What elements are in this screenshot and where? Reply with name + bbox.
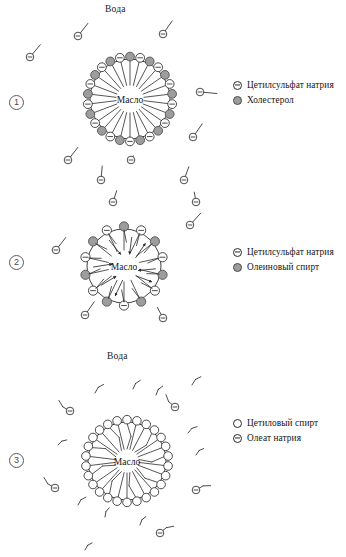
surfactant-head [150, 488, 159, 497]
anionic-circle-icon [233, 434, 242, 443]
surfactant-head [84, 471, 93, 480]
free-molecule-tail [163, 528, 166, 531]
free-tail-fragment [192, 379, 195, 385]
surfactant-tail [121, 61, 127, 85]
oil-core-label-2: Масло [111, 262, 138, 272]
free-molecule-tail [166, 526, 173, 527]
free-tail-fragment [81, 497, 86, 500]
surfactant-tail [152, 456, 165, 462]
panel-cetyl-sulfate-oleyl-alcohol: 2 Масло Цетилсульфат натрия Олеиновый сп… [0, 190, 346, 345]
surfactant-tail [133, 113, 139, 137]
free-tail-fragment [62, 440, 67, 441]
surfactant-head [168, 89, 177, 98]
free-tail-fragment [136, 380, 141, 383]
free-tail-fragment [140, 520, 142, 525]
free-tail-fragment [156, 389, 158, 395]
surfactant-head [126, 52, 135, 61]
surfactant-head [84, 442, 93, 451]
anionic-circle-icon [233, 81, 242, 90]
free-tail-fragment [95, 387, 98, 393]
exchange-arrow [135, 244, 145, 258]
surfactant-head [95, 426, 104, 435]
free-molecule-tail [193, 213, 201, 222]
surfactant-tail [119, 437, 121, 450]
surfactant-tail [89, 456, 115, 459]
free-tail-fragment [105, 512, 106, 517]
legend-item: Холестерол [233, 95, 334, 105]
surfactant-tail [89, 258, 108, 262]
surfactant-tail [92, 448, 106, 449]
free-molecule-tail [169, 402, 172, 405]
free-molecule-tail [199, 486, 203, 488]
free-tail-fragment [98, 384, 103, 387]
surfactant-tail [89, 270, 108, 274]
surfactant-head [91, 71, 100, 80]
legend-item: Олеиновый спирт [233, 262, 334, 272]
filled-circle-icon [233, 96, 242, 105]
surfactant-tail [98, 107, 118, 121]
free-tail-fragment [195, 377, 200, 380]
free-tail-fragment [188, 428, 192, 433]
panel-cetyl-sulfate-cholesterol: Вода 1 Масло Цетилсульфат натрия Холесте… [0, 0, 346, 190]
surfactant-head [86, 110, 95, 119]
free-molecule-tail [195, 124, 202, 134]
oil-core-label-3: Масло [114, 457, 141, 467]
free-tail-fragment [88, 543, 92, 545]
surfactant-head [133, 497, 142, 506]
free-tail-fragment [78, 500, 81, 505]
legend-item: Цетилсульфат натрия [233, 80, 334, 90]
surfactant-tail [137, 276, 152, 288]
free-molecule-tail [157, 307, 161, 314]
free-molecule-tail [204, 92, 217, 93]
surfactant-head [136, 136, 145, 145]
surfactant-head [88, 237, 97, 246]
surfactant-tail [127, 423, 131, 436]
filled-circle-icon [233, 263, 242, 272]
surfactant-head [145, 57, 154, 66]
surfactant-head [95, 488, 104, 497]
surfactant-tail [129, 473, 130, 486]
legend-item-label: Цетиловый спирт [247, 418, 318, 428]
surfactant-tail [145, 478, 158, 482]
exchange-arrow [135, 276, 151, 282]
surfactant-head [164, 462, 173, 471]
legend-item-label: Цетилсульфат натрия [247, 247, 334, 257]
surfactant-tail [109, 428, 119, 438]
legend-panel-3: Цетиловый спирт Олеат натрия [233, 418, 318, 443]
surfactant-tail [143, 85, 166, 94]
surfactant-tail [139, 462, 165, 465]
surfactant-head [89, 433, 98, 442]
legend-item-label: Холестерол [247, 95, 294, 105]
surfactant-tail [89, 462, 115, 465]
exchange-arrow [101, 276, 116, 285]
free-molecule-tail [194, 192, 195, 198]
free-tail-fragment [192, 427, 197, 429]
surfactant-tail [96, 244, 111, 256]
surfactant-head [97, 126, 106, 135]
surfactant-tail [138, 448, 162, 457]
free-molecule-tail [80, 23, 88, 33]
micelle-figure-3: Масло [0, 345, 346, 557]
surfactant-head [164, 452, 173, 461]
surfactant-tail [142, 77, 162, 91]
free-molecule-tail [101, 166, 102, 176]
surfactant-tail [108, 280, 117, 298]
surfactant-tail [131, 234, 140, 252]
legend-item: Олеат натрия [233, 433, 318, 443]
surfactant-tail [133, 61, 139, 85]
surfactant-tail [144, 101, 169, 104]
surfactant-head [81, 270, 90, 279]
surfactant-head [102, 297, 111, 306]
free-tail-fragment [199, 449, 204, 451]
surfactant-head [157, 433, 166, 442]
plain-circle-icon [233, 419, 242, 428]
surfactant-tail [144, 244, 152, 253]
surfactant-head [103, 493, 112, 502]
free-tail-fragment [142, 517, 146, 520]
surfactant-head [154, 126, 163, 135]
surfactant-tail [142, 107, 162, 121]
surfactant-head [82, 462, 91, 471]
free-tail-fragment [58, 441, 62, 445]
anionic-circle-icon [233, 248, 242, 257]
surfactant-head [83, 89, 92, 98]
